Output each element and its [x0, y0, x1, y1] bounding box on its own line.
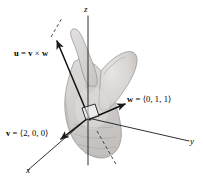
vector-v-components: ⟨2, 0, 0⟩ [20, 128, 49, 138]
vector-v-label: v = ⟨2, 0, 0⟩ [6, 129, 49, 138]
vector-w-label: w = ⟨0, 1, 1⟩ [127, 95, 171, 104]
vector-u-label: u = v × w [14, 49, 48, 58]
x-axis-label: x [26, 166, 30, 175]
vector-u-operand-b: w [42, 48, 48, 58]
z-axis-label: z [84, 5, 88, 14]
vector-w-components: ⟨0, 1, 1⟩ [143, 94, 172, 104]
y-axis-label: y [190, 137, 194, 146]
figure-canvas [0, 0, 203, 185]
cross-product-right-hand-rule-figure: u = v × w w = ⟨0, 1, 1⟩ v = ⟨2, 0, 0⟩ z … [0, 0, 203, 185]
dashed-extension-upper [51, 18, 62, 37]
